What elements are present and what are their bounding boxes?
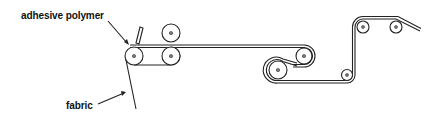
guide-roller-top-1 [357, 21, 369, 33]
adhesive-polymer-label: adhesive polymer [21, 10, 104, 21]
top-nip-roller [162, 24, 180, 42]
fabric-pointer-arrow [98, 91, 126, 104]
guide-roller-bottom-right [342, 70, 353, 81]
guide-roller-lower [269, 61, 287, 79]
guide-roller-upper [296, 48, 312, 64]
fabric-feed-line [126, 60, 136, 109]
adhesive-pointer-arrow [108, 21, 129, 45]
fabric-label: fabric [66, 100, 93, 111]
knife-blade-icon [136, 27, 143, 44]
bottom-nip-roller [162, 47, 180, 65]
coating-roller [125, 47, 143, 65]
guide-roller-top-2 [390, 21, 402, 33]
